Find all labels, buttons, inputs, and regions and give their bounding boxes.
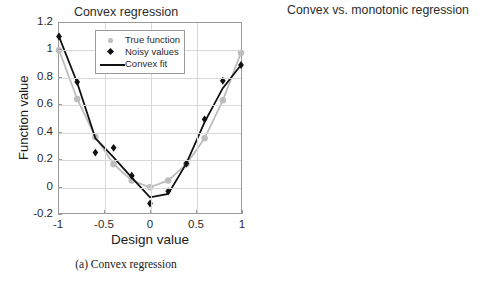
- panel-a-y-axis-label: Function value: [16, 75, 31, 160]
- x-tick-mark: [196, 210, 197, 214]
- x-tick-mark: [150, 210, 151, 214]
- legend-marker-diamond-icon: [107, 48, 114, 55]
- legend-line-solid-icon: [99, 58, 125, 70]
- y-tick-label: 0: [18, 181, 53, 193]
- y-tick-label: 1: [18, 43, 53, 55]
- y-tick-mark: [58, 214, 62, 215]
- panel-a-x-axis-label: Design value: [58, 232, 242, 247]
- x-tick-label: 0: [130, 219, 170, 231]
- legend-entry: True function: [99, 34, 180, 46]
- gridline-horizontal: [59, 105, 241, 106]
- data-point-true-function: [165, 177, 172, 184]
- x-tick-label: 0.5: [176, 219, 216, 231]
- y-tick-mark: [58, 104, 62, 105]
- x-tick-mark: [104, 210, 105, 214]
- y-tick-label: 0.4: [18, 126, 53, 138]
- legend-marker-circle-icon: [108, 38, 113, 43]
- gridline-horizontal: [59, 160, 241, 161]
- x-tick-label: -0.5: [84, 219, 124, 231]
- legend-entry: Noisy values: [99, 46, 180, 58]
- data-point-true-function: [110, 161, 117, 168]
- x-tick-mark: [242, 210, 243, 214]
- legend-marker-diamond-icon: [99, 46, 125, 58]
- gridline-horizontal: [59, 78, 241, 79]
- data-point-noisy-values: [111, 144, 117, 152]
- gridline-horizontal: [59, 188, 241, 189]
- data-point-true-function: [74, 96, 81, 103]
- panel-convex-regression: Convex regression Function value Design …: [0, 0, 252, 288]
- data-point-true-function: [201, 135, 208, 142]
- y-tick-label: 0.6: [18, 98, 53, 110]
- legend-label: Noisy values: [125, 47, 179, 57]
- y-tick-label: -0.2: [18, 208, 53, 220]
- panel-convex-vs-monotonic-regression: Convex vs. monotonic regression Function…: [252, 0, 504, 288]
- figure-container: Convex regression Function value Design …: [0, 0, 504, 288]
- data-point-true-function: [220, 97, 227, 104]
- y-tick-mark: [58, 132, 62, 133]
- y-tick-mark: [58, 22, 62, 23]
- panel-b-title: Convex vs. monotonic regression: [252, 3, 504, 17]
- y-tick-mark: [58, 77, 62, 78]
- legend-line-solid-icon: [100, 64, 125, 66]
- x-tick-label: -1: [38, 219, 78, 231]
- y-tick-mark: [58, 187, 62, 188]
- legend-label: True function: [125, 35, 180, 45]
- y-tick-label: 0.8: [18, 71, 53, 83]
- data-point-noisy-values: [93, 149, 99, 157]
- gridline-vertical: [197, 23, 198, 213]
- y-tick-label: 0.2: [18, 153, 53, 165]
- legend-label: Convex fit: [125, 59, 167, 69]
- y-tick-label: 1.2: [18, 16, 53, 28]
- y-tick-mark: [58, 49, 62, 50]
- legend-marker-circle-icon: [99, 34, 125, 46]
- y-tick-mark: [58, 159, 62, 160]
- panel-a-caption: (a) Convex regression: [0, 258, 252, 270]
- x-tick-mark: [58, 210, 59, 214]
- gridline-horizontal: [59, 133, 241, 134]
- panel-a-legend: True functionNoisy valuesConvex fit: [95, 30, 185, 74]
- legend-entry: Convex fit: [99, 58, 180, 70]
